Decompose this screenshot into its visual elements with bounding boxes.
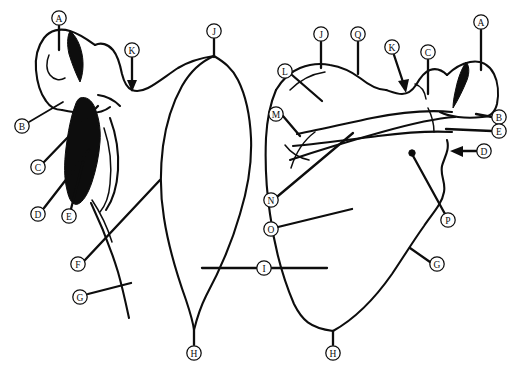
marker-letter-text: G xyxy=(434,260,441,270)
marker-letter-text: H xyxy=(191,349,198,359)
label-marker-c-right[interactable]: C xyxy=(421,45,435,59)
label-marker-a-left[interactable]: A xyxy=(52,11,66,25)
label-marker-n-right[interactable]: N xyxy=(264,193,278,207)
label-marker-b-right[interactable]: B xyxy=(492,110,506,124)
label-marker-h-left[interactable]: H xyxy=(187,346,201,360)
marker-letter-text: A xyxy=(56,14,63,24)
label-marker-o-right[interactable]: O xyxy=(264,222,278,236)
marker-letter-text: Q xyxy=(355,30,362,40)
marker-letter-text: C xyxy=(425,48,431,58)
label-marker-k-left[interactable]: K xyxy=(125,43,139,57)
marker-letter-text: K xyxy=(129,46,136,56)
marker-letter-text: H xyxy=(330,349,337,359)
label-marker-j-right[interactable]: J xyxy=(314,27,328,41)
marker-letter-text: J xyxy=(319,30,323,40)
label-marker-g-right[interactable]: G xyxy=(430,257,444,271)
label-marker-a-right[interactable]: A xyxy=(474,15,488,29)
marker-letter-text: I xyxy=(262,264,265,274)
label-marker-k-right[interactable]: K xyxy=(385,40,399,54)
marker-letter-text: A xyxy=(478,18,485,28)
label-marker-p-right[interactable]: P xyxy=(441,213,455,227)
label-marker-g-left[interactable]: G xyxy=(73,290,87,304)
marker-letter-text: D xyxy=(35,210,42,220)
marker-letter-text: C xyxy=(35,163,41,173)
label-marker-e-left[interactable]: E xyxy=(62,209,76,223)
label-marker-d-right[interactable]: D xyxy=(477,144,491,158)
marker-letter-text: P xyxy=(445,216,450,226)
marker-letter-text: F xyxy=(75,260,80,270)
marker-letter-text: D xyxy=(481,147,488,157)
marker-letter-text: L xyxy=(282,67,288,77)
label-marker-m-right[interactable]: M xyxy=(269,107,283,121)
marker-letter-text: M xyxy=(272,110,281,120)
marker-letter-text: O xyxy=(268,225,275,235)
marker-letter-text: B xyxy=(19,122,25,132)
label-marker-q-right[interactable]: Q xyxy=(351,27,365,41)
label-marker-l-right[interactable]: L xyxy=(278,64,292,78)
label-marker-c-left[interactable]: C xyxy=(31,160,45,174)
anatomy-diagram-root: ABCDEFGHJKIABEDCKQJLMNOPGH xyxy=(0,0,513,372)
marker-letter-text: N xyxy=(268,196,275,206)
label-marker-d-left[interactable]: D xyxy=(31,207,45,221)
label-marker-j-left[interactable]: J xyxy=(207,24,221,38)
marker-letter-text: E xyxy=(496,127,502,137)
label-marker-b-left[interactable]: B xyxy=(15,119,29,133)
marker-letter-text: E xyxy=(66,212,72,222)
scapula-diagram-svg: ABCDEFGHJKIABEDCKQJLMNOPGH xyxy=(0,0,513,372)
marker-letter-text: K xyxy=(389,43,396,53)
label-marker-h-right[interactable]: H xyxy=(326,346,340,360)
marker-letter-text: J xyxy=(212,27,216,37)
marker-letter-text: B xyxy=(496,113,502,123)
marker-letter-text: G xyxy=(77,293,84,303)
label-marker-e-right[interactable]: E xyxy=(492,124,506,138)
label-marker-i-center[interactable]: I xyxy=(257,261,271,275)
label-marker-f-left[interactable]: F xyxy=(71,257,85,271)
